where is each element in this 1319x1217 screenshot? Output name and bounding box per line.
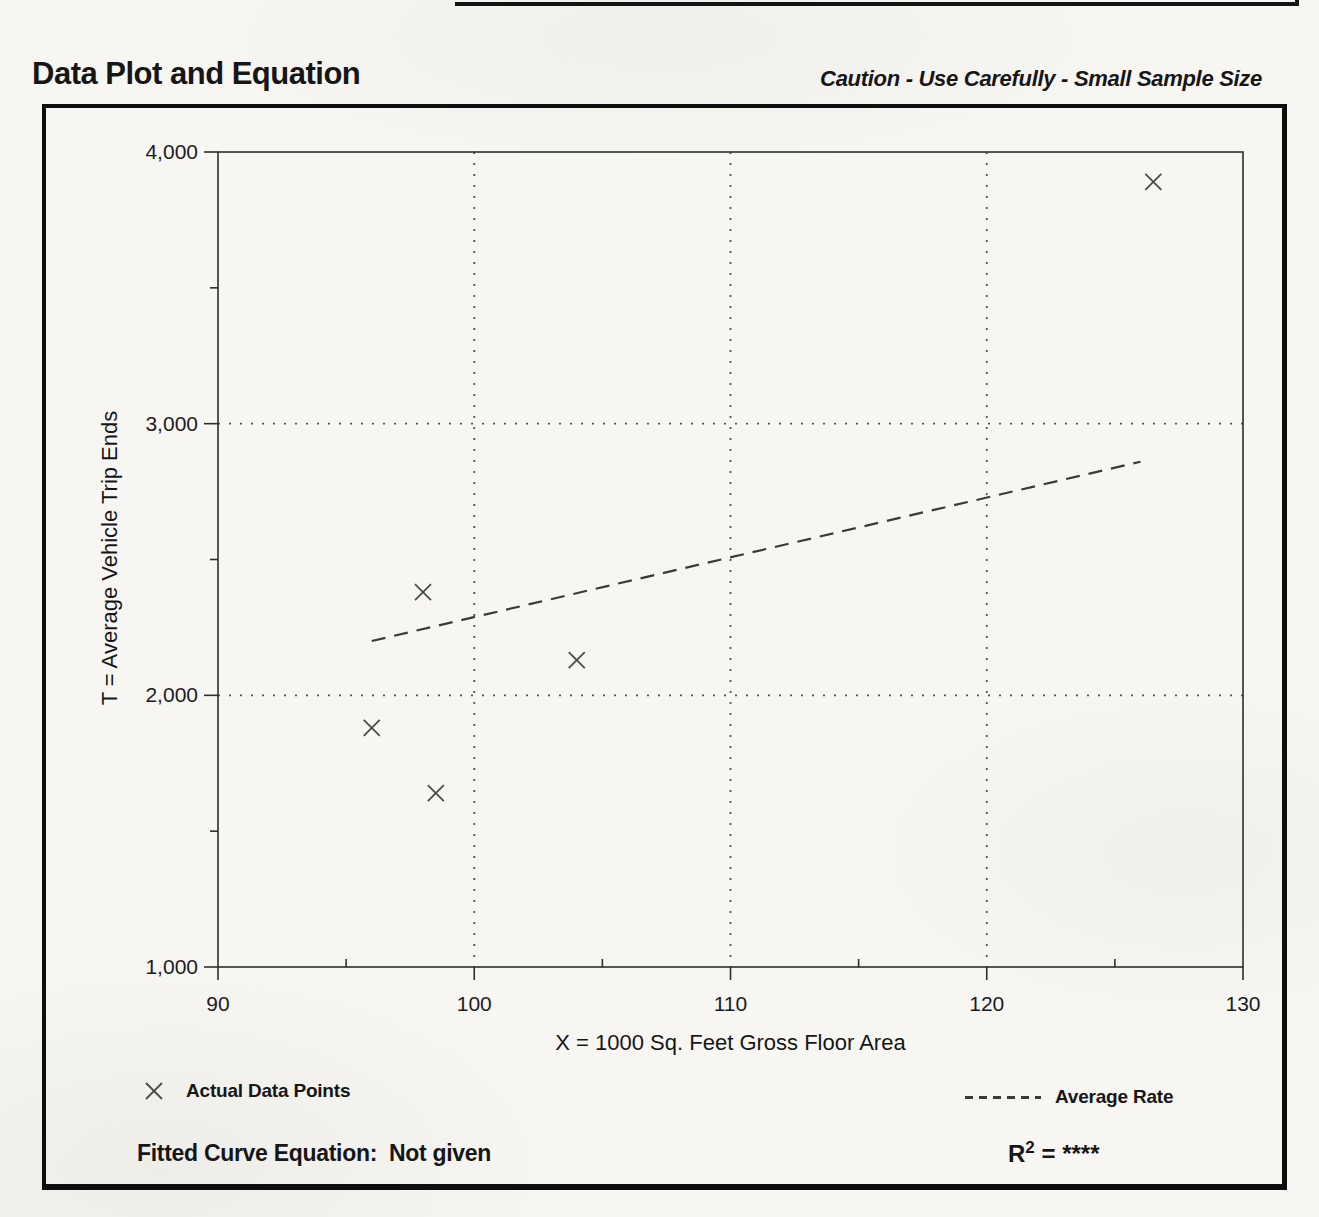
r-squared-equals: =	[1035, 1140, 1062, 1167]
x-axis-tick-label: 90	[206, 992, 229, 1015]
legend-average-rate: Average Rate	[965, 1086, 1173, 1108]
equation-value: Not given	[389, 1140, 491, 1166]
data-point-marker	[569, 652, 585, 668]
r-squared-value: ****	[1062, 1140, 1099, 1167]
x-axis-title: X = 1000 Sq. Feet Gross Floor Area	[218, 1030, 1243, 1056]
x-axis-tick-label: 100	[457, 992, 492, 1015]
average-rate-line	[372, 462, 1141, 641]
y-axis-tick-label: 3,000	[145, 412, 198, 435]
x-marker-icon	[144, 1081, 164, 1101]
data-point-marker	[415, 584, 431, 600]
scanned-report-page: Data Plot and Equation Caution - Use Car…	[0, 0, 1319, 1217]
y-axis-tick-label: 2,000	[145, 683, 198, 706]
r-squared-exponent: 2	[1025, 1138, 1034, 1157]
page-title: Data Plot and Equation	[32, 56, 360, 92]
x-axis-tick-label: 120	[969, 992, 1004, 1015]
data-point-marker	[1145, 174, 1161, 190]
r-squared-statistic: R2 = ****	[1008, 1138, 1100, 1168]
fitted-curve-equation: Fitted Curve Equation:Not given	[137, 1140, 491, 1167]
data-point-marker	[364, 720, 380, 736]
legend-label-average-rate: Average Rate	[1055, 1086, 1173, 1108]
equation-label: Fitted Curve Equation:	[137, 1140, 377, 1166]
x-axis-tick-label: 130	[1225, 992, 1260, 1015]
r-squared-base: R	[1008, 1140, 1025, 1167]
dashed-line-icon	[965, 1096, 1041, 1099]
scatter-plot: 901001101201301,0002,0003,0004,000	[46, 108, 1282, 1183]
legend-label-actual-data-points: Actual Data Points	[186, 1080, 350, 1102]
previous-box-edge-artifact	[455, 0, 1299, 6]
caution-note: Caution - Use Carefully - Small Sample S…	[820, 66, 1262, 92]
y-axis-title: T = Average Vehicle Trip Ends	[96, 358, 124, 758]
y-axis-tick-label: 1,000	[145, 955, 198, 978]
y-axis-tick-label: 4,000	[145, 140, 198, 163]
x-axis-tick-label: 110	[714, 992, 747, 1015]
chart-outer-box: 901001101201301,0002,0003,0004,000 T = A…	[42, 104, 1287, 1190]
data-point-marker	[428, 785, 444, 801]
legend-actual-data-points: Actual Data Points	[144, 1080, 350, 1102]
